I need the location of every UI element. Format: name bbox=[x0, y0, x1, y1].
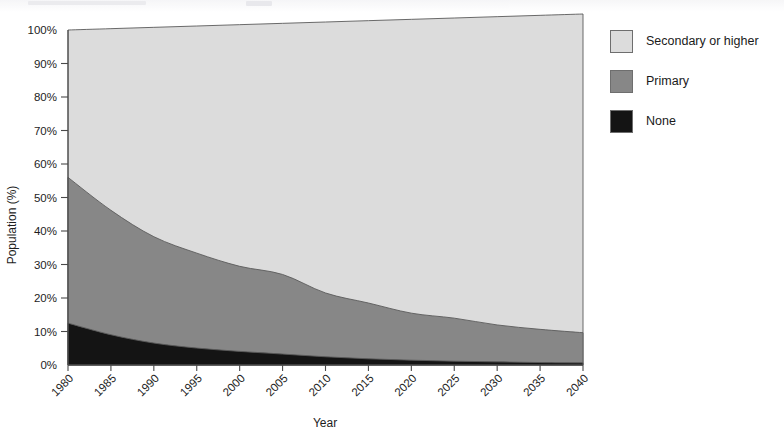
x-tick-label-2015: 2015 bbox=[349, 372, 376, 399]
y-tick-label-30: 30% bbox=[34, 259, 57, 271]
x-tick-label-2025: 2025 bbox=[435, 372, 462, 399]
chart-legend: Secondary or higher Primary None bbox=[610, 24, 782, 144]
x-axis-tick-labels: 1980198519901995200020052010201520202025… bbox=[49, 372, 591, 399]
x-axis-ticks bbox=[68, 365, 583, 371]
y-axis-ticks bbox=[61, 64, 68, 332]
legend-item-none: None bbox=[610, 104, 782, 138]
x-axis-title: Year bbox=[313, 416, 337, 430]
stacked-area-chart: 0%10%20%30%40%50%60%70%80%90%100% 198019… bbox=[0, 0, 600, 435]
legend-swatch-primary bbox=[610, 70, 633, 93]
legend-item-primary: Primary bbox=[610, 64, 782, 98]
plot-area: 0%10%20%30%40%50%60%70%80%90%100% 198019… bbox=[0, 0, 600, 435]
legend-swatch-none bbox=[610, 110, 633, 133]
legend-item-secondary-or-higher: Secondary or higher bbox=[610, 24, 782, 58]
x-tick-label-2000: 2000 bbox=[220, 372, 247, 399]
chart-figure: 0%10%20%30%40%50%60%70%80%90%100% 198019… bbox=[0, 0, 784, 435]
x-tick-label-2010: 2010 bbox=[306, 372, 333, 399]
y-axis-tick-labels: 0%10%20%30%40%50%60%70%80%90%100% bbox=[28, 24, 57, 371]
x-tick-label-1990: 1990 bbox=[135, 372, 162, 399]
x-tick-label-1995: 1995 bbox=[178, 372, 205, 399]
legend-label-primary: Primary bbox=[646, 75, 689, 88]
y-tick-label-90: 90% bbox=[34, 58, 57, 70]
x-tick-label-2030: 2030 bbox=[478, 372, 505, 399]
legend-label-none: None bbox=[646, 115, 676, 128]
legend-swatch-secondary-or-higher bbox=[610, 30, 633, 53]
legend-label-secondary-or-higher: Secondary or higher bbox=[646, 35, 759, 48]
x-tick-label-1985: 1985 bbox=[92, 372, 119, 399]
x-tick-label-2005: 2005 bbox=[263, 372, 290, 399]
y-tick-label-10: 10% bbox=[34, 326, 57, 338]
x-tick-label-1980: 1980 bbox=[49, 372, 76, 399]
x-tick-label-2020: 2020 bbox=[392, 372, 419, 399]
x-tick-label-2035: 2035 bbox=[521, 372, 548, 399]
y-tick-label-50: 50% bbox=[34, 192, 57, 204]
y-axis-title: Population (%) bbox=[5, 186, 19, 265]
y-tick-label-60: 60% bbox=[34, 158, 57, 170]
y-tick-label-40: 40% bbox=[34, 225, 57, 237]
y-tick-label-80: 80% bbox=[34, 91, 57, 103]
y-tick-label-0: 0% bbox=[40, 359, 57, 371]
y-tick-label-70: 70% bbox=[34, 125, 57, 137]
y-tick-label-100: 100% bbox=[28, 24, 57, 36]
x-tick-label-2040: 2040 bbox=[564, 372, 591, 399]
series-layers bbox=[68, 14, 583, 365]
y-tick-label-20: 20% bbox=[34, 292, 57, 304]
